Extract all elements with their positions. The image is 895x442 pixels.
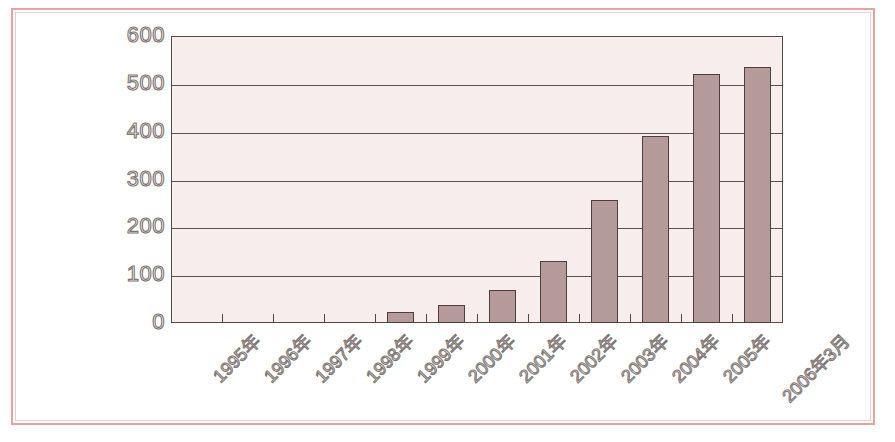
x-axis-tick xyxy=(375,314,376,323)
x-axis-tick-label: 1997年 xyxy=(312,332,366,386)
bar xyxy=(744,67,771,323)
y-axis-tick-label: 400 xyxy=(107,120,165,142)
x-axis-tick xyxy=(528,314,529,323)
y-axis-tick-label: 500 xyxy=(107,72,165,94)
y-axis-tick-label: 600 xyxy=(107,24,165,46)
x-axis-tick-label: 1999年 xyxy=(414,332,468,386)
x-axis-tick-label: 2001年 xyxy=(516,332,570,386)
bars-container xyxy=(171,36,783,323)
y-axis-tick-label: 100 xyxy=(107,263,165,285)
x-axis-tick-label: 2006年3月 xyxy=(779,332,853,406)
x-axis-tick-label: 2000年 xyxy=(465,332,519,386)
x-axis-tick xyxy=(324,314,325,323)
x-axis-tick xyxy=(681,314,682,323)
bar xyxy=(438,305,465,323)
bar xyxy=(642,136,669,323)
bar xyxy=(591,200,618,323)
x-axis-tick-label: 2002年 xyxy=(567,332,621,386)
x-axis-tick-label: 1995年 xyxy=(210,332,264,386)
x-axis-tick-label: 2005年 xyxy=(720,332,774,386)
x-axis-tick xyxy=(426,314,427,323)
y-axis: 6005004003002001000 xyxy=(103,36,165,323)
x-axis-tick-label: 1998年 xyxy=(363,332,417,386)
x-axis-tick xyxy=(579,314,580,323)
x-axis-tick-label: 1996年 xyxy=(261,332,315,386)
bar xyxy=(489,290,516,323)
x-axis-tick xyxy=(732,314,733,323)
x-axis-tick-label: 2003年 xyxy=(618,332,672,386)
bar-chart: 6005004003002001000 1995年1996年1997年1998年… xyxy=(0,0,895,442)
x-axis-tick-label: 2004年 xyxy=(669,332,723,386)
chart-page: 6005004003002001000 1995年1996年1997年1998年… xyxy=(0,0,895,442)
x-axis-labels: 1995年1996年1997年1998年1999年2000年2001年2002年… xyxy=(171,326,783,426)
x-axis-tick xyxy=(222,314,223,323)
x-axis-tick xyxy=(477,314,478,323)
bar xyxy=(693,74,720,323)
y-axis-tick-label: 0 xyxy=(107,311,165,333)
bar xyxy=(540,261,567,323)
x-axis-tick xyxy=(630,314,631,323)
y-axis-tick-label: 200 xyxy=(107,215,165,237)
x-axis-tick xyxy=(273,314,274,323)
bar xyxy=(387,312,414,323)
y-axis-tick-label: 300 xyxy=(107,168,165,190)
